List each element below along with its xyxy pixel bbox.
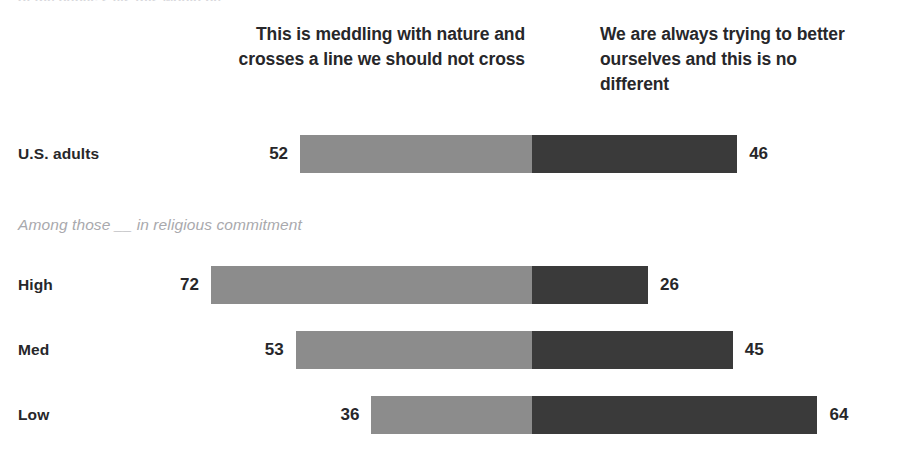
row-bar	[300, 135, 737, 173]
chart-row: Med 53 45	[0, 330, 901, 370]
row-value-right: 26	[660, 265, 704, 305]
bar-segment-right	[532, 331, 733, 369]
bar-segment-left	[296, 331, 532, 369]
bar-segment-right	[532, 396, 817, 434]
bar-segment-right	[532, 135, 737, 173]
row-value-left: 53	[240, 330, 284, 370]
row-label: Low	[18, 395, 49, 435]
row-bar	[211, 266, 648, 304]
row-label: High	[18, 265, 53, 305]
bar-segment-left	[211, 266, 532, 304]
row-value-right: 64	[829, 395, 873, 435]
column-header-left: This is meddling with nature and crosses…	[200, 22, 525, 72]
clipped-header-text: of the public says this would be ...	[18, 0, 236, 1]
chart-row: High 72 26	[0, 265, 901, 305]
section-note: Among those __ in religious commitment	[18, 216, 302, 234]
row-value-left: 52	[244, 134, 288, 174]
diverging-bar-chart: of the public says this would be ... Thi…	[0, 0, 901, 450]
row-value-right: 45	[745, 330, 789, 370]
row-value-right: 46	[749, 134, 793, 174]
bar-segment-left	[371, 396, 532, 434]
row-value-left: 36	[315, 395, 359, 435]
chart-row: U.S. adults 52 46	[0, 134, 901, 174]
row-label: Med	[18, 330, 49, 370]
column-header-right: We are always trying to better ourselves…	[600, 22, 870, 97]
chart-row: Low 36 64	[0, 395, 901, 435]
bar-segment-right	[532, 266, 648, 304]
row-bar	[371, 396, 817, 434]
row-label: U.S. adults	[18, 134, 99, 174]
bar-segment-left	[300, 135, 532, 173]
row-bar	[296, 331, 733, 369]
row-value-left: 72	[155, 265, 199, 305]
